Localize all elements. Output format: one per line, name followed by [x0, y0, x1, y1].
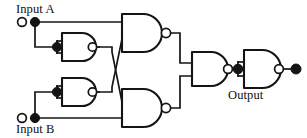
wire-nand-bottom-to-combine: [168, 76, 192, 108]
wire-nand-top-to-combine: [168, 33, 192, 63]
logic-circuit-diagram: Input A Input B Output: [0, 0, 307, 138]
input-b-label: Input B: [16, 122, 55, 137]
gate-nand-top: [122, 14, 171, 52]
output-terminal[interactable]: [291, 64, 301, 74]
gate-inverter-a: [52, 33, 99, 61]
input-a-terminal[interactable]: [18, 18, 27, 27]
gate-inverter-a-tie-junction: [52, 42, 61, 51]
input-a-junction: [30, 17, 39, 26]
gate-nand-bottom-body: [122, 89, 162, 127]
gate-inverter-out: [233, 50, 283, 88]
gate-nand-combine-body: [192, 52, 228, 86]
gate-nand-combine-bubble: [224, 65, 233, 74]
output-label: Output: [228, 88, 263, 103]
gate-inverter-b: [52, 78, 99, 106]
gate-nand-combine: [192, 52, 232, 86]
gate-nand-bottom: [122, 89, 171, 127]
input-a-label: Input A: [16, 2, 55, 17]
gate-inverter-b-bubble: [88, 88, 96, 96]
gate-inverter-a-bubble: [88, 43, 96, 51]
gate-inverter-out-tie-junction: [233, 64, 243, 74]
gate-inverter-out-bubble: [275, 65, 284, 74]
gate-nand-top-bubble: [161, 28, 170, 37]
circuit-schematic-canvas: [0, 0, 307, 138]
gate-nand-bottom-bubble: [161, 103, 170, 112]
gate-inverter-b-tie-junction: [52, 87, 61, 96]
gate-nand-top-body: [122, 14, 162, 52]
